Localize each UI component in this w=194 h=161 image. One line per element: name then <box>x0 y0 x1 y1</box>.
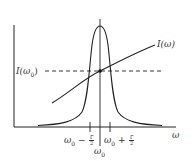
tick-lower-fraction: Γ2 <box>89 135 93 146</box>
tick-label-upper: ω0 + Γ2 <box>104 135 134 149</box>
tick-center-sub: 0 <box>101 151 105 158</box>
tick-upper-two: 2 <box>129 141 133 146</box>
reference-level-label: I(ω0) <box>16 66 38 80</box>
tick-label-lower: ω0 − Γ2 <box>64 135 94 149</box>
tick-lower-minus: − <box>75 135 88 145</box>
intensity-curve-label: I(ω) <box>157 39 175 49</box>
diagram-canvas <box>0 0 194 161</box>
reference-label-suffix: ) <box>34 66 38 76</box>
intensity-curve <box>52 45 155 103</box>
resonance-diagram: I(ω0) I(ω) ω ω0 − Γ2 ω0 + Γ2 ω0 <box>0 0 194 161</box>
tick-label-center: ω0 <box>94 146 105 160</box>
x-axis-label: ω <box>172 130 179 140</box>
intersection-point <box>98 69 102 73</box>
tick-upper-plus: + <box>115 135 128 145</box>
tick-upper-fraction: Γ2 <box>129 135 133 146</box>
